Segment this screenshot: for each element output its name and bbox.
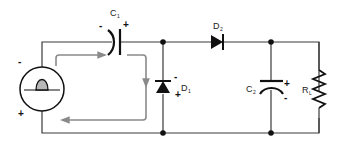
d1-subscript: 1 xyxy=(188,88,191,94)
d1-label: D xyxy=(181,83,188,93)
c1-subscript: 1 xyxy=(117,13,120,19)
source-bottom-polarity: + xyxy=(18,108,24,119)
junction-dot xyxy=(160,130,166,136)
current-flow-path xyxy=(56,55,146,120)
capacitor-c1: C 1 - + xyxy=(99,8,129,55)
c2-bottom-polarity: - xyxy=(284,92,287,103)
ac-source: - + xyxy=(18,56,64,119)
junction-dot xyxy=(268,39,274,45)
resistor-rl: R L xyxy=(302,42,325,133)
c2-subscript: 2 xyxy=(253,89,256,95)
rl-label: R xyxy=(302,85,309,95)
diode-d1: - + D 1 xyxy=(155,71,191,100)
voltage-doubler-diagram: - + C 1 - + - + D 1 D 2 C 2 + - R xyxy=(0,0,343,145)
junction-dots xyxy=(160,39,274,136)
c1-label: C xyxy=(110,8,117,18)
d2-subscript: 2 xyxy=(220,26,223,32)
diode-d2: D 2 xyxy=(211,21,223,50)
c2-top-polarity: + xyxy=(284,78,290,89)
rl-subscript: L xyxy=(309,90,312,96)
junction-dot xyxy=(268,130,274,136)
d1-triangle-icon xyxy=(156,81,170,93)
c2-label: C xyxy=(246,84,253,94)
junction-dot xyxy=(160,39,166,45)
flow-arrow-down-icon xyxy=(127,55,146,86)
d1-top-polarity: - xyxy=(174,71,177,82)
wire-bottom-return xyxy=(42,111,319,133)
flow-arrow-right-icon xyxy=(56,55,105,66)
source-top-polarity: - xyxy=(18,56,21,67)
d2-triangle-icon xyxy=(211,35,223,49)
flow-arrow-left-icon xyxy=(62,84,146,120)
c1-left-polarity: - xyxy=(99,20,102,31)
capacitor-c2: C 2 + - xyxy=(246,78,290,103)
d2-label: D xyxy=(213,21,220,31)
c1-right-polarity: + xyxy=(123,19,129,30)
